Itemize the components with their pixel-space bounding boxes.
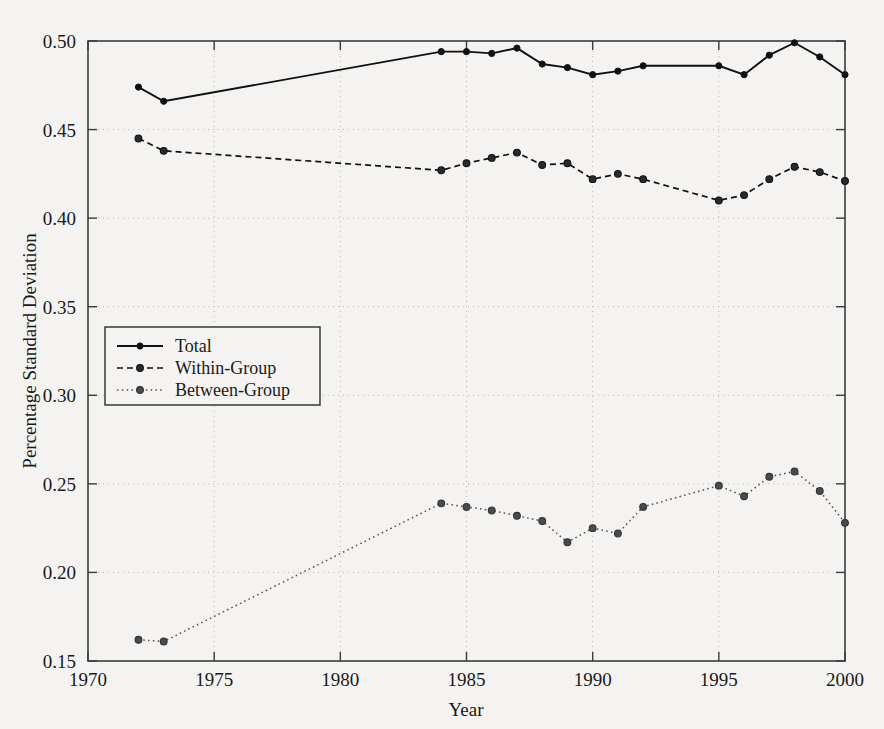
data-point xyxy=(791,468,798,475)
y-axis-tick-label: 0.40 xyxy=(43,208,76,229)
legend-marker-sample xyxy=(137,343,143,349)
data-point xyxy=(539,518,546,525)
data-point xyxy=(489,50,495,56)
legend-label-total: Total xyxy=(175,336,212,356)
data-point xyxy=(564,539,571,546)
y-axis-tick-label: 0.50 xyxy=(43,31,76,52)
data-point xyxy=(488,155,495,162)
data-point xyxy=(715,197,722,204)
data-point xyxy=(438,49,444,55)
y-axis-tick-label: 0.35 xyxy=(43,297,76,318)
data-point xyxy=(463,160,470,167)
legend-label-within-group: Within-Group xyxy=(175,358,276,378)
legend-marker-sample xyxy=(137,387,144,394)
legend-label-between-group: Between-Group xyxy=(175,380,290,400)
legend-marker-sample xyxy=(137,365,144,372)
y-axis-tick-label: 0.20 xyxy=(43,562,76,583)
data-point xyxy=(842,178,849,185)
data-point xyxy=(816,488,823,495)
y-axis-tick-label: 0.25 xyxy=(43,474,76,495)
data-point xyxy=(741,192,748,199)
data-point xyxy=(160,147,167,154)
data-point xyxy=(766,52,772,58)
data-point xyxy=(615,530,622,537)
data-point xyxy=(438,167,445,174)
data-point xyxy=(615,68,621,74)
data-point xyxy=(463,49,469,55)
y-axis-tick-label: 0.30 xyxy=(43,385,76,406)
data-point xyxy=(539,162,546,169)
data-point xyxy=(135,84,141,90)
data-point xyxy=(842,519,849,526)
data-point xyxy=(135,636,142,643)
x-axis-tick-label: 1975 xyxy=(195,669,233,690)
x-axis-tick-label: 1980 xyxy=(321,669,359,690)
data-point xyxy=(791,40,797,46)
data-point xyxy=(640,63,646,69)
data-point xyxy=(463,503,470,510)
data-point xyxy=(438,500,445,507)
data-point xyxy=(615,170,622,177)
data-point xyxy=(766,176,773,183)
data-point xyxy=(741,493,748,500)
x-axis-tick-label: 1970 xyxy=(69,669,107,690)
y-axis-tick-label: 0.45 xyxy=(43,120,76,141)
x-axis-tick-label: 1990 xyxy=(574,669,612,690)
data-point xyxy=(817,54,823,60)
data-point xyxy=(640,503,647,510)
data-point xyxy=(589,525,596,532)
chart-figure: 0.150.200.250.300.350.400.450.50 1970197… xyxy=(0,0,884,729)
data-point xyxy=(715,482,722,489)
x-axis-tick-label: 1985 xyxy=(448,669,486,690)
x-axis-title: Year xyxy=(448,699,484,720)
data-point xyxy=(716,63,722,69)
line-chart: 0.150.200.250.300.350.400.450.50 1970197… xyxy=(0,0,884,729)
data-point xyxy=(564,160,571,167)
data-point xyxy=(514,149,521,156)
data-point xyxy=(766,473,773,480)
data-point xyxy=(514,512,521,519)
x-axis-tick-label: 1995 xyxy=(700,669,738,690)
data-point xyxy=(564,64,570,70)
data-point xyxy=(640,176,647,183)
data-point xyxy=(791,163,798,170)
data-point xyxy=(135,135,142,142)
chart-legend: TotalWithin-GroupBetween-Group xyxy=(105,327,320,405)
data-point xyxy=(842,72,848,78)
data-point xyxy=(160,638,167,645)
data-point xyxy=(590,72,596,78)
data-point xyxy=(589,176,596,183)
y-axis-title: Percentage Standard Deviation xyxy=(19,233,40,469)
data-point xyxy=(161,98,167,104)
data-point xyxy=(741,72,747,78)
x-axis-tick-label: 2000 xyxy=(826,669,864,690)
data-point xyxy=(488,507,495,514)
data-point xyxy=(539,61,545,67)
data-point xyxy=(514,45,520,51)
data-point xyxy=(816,169,823,176)
